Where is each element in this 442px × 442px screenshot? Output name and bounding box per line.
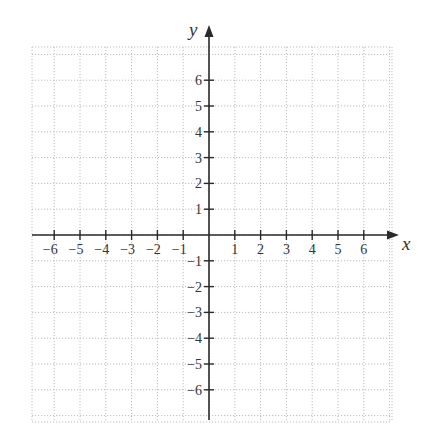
y-axis-label: y [187, 19, 198, 40]
x-tick-label: 2 [257, 242, 264, 257]
y-tick-label: −6 [187, 383, 202, 398]
x-tick-label: 6 [360, 242, 367, 257]
x-tick-label: 4 [309, 242, 316, 257]
y-tick-label: 2 [195, 176, 202, 191]
x-tick-label: −2 [146, 242, 161, 257]
y-tick-label: 4 [195, 125, 202, 140]
x-tick-label: −5 [69, 242, 84, 257]
y-tick-label: −1 [187, 254, 202, 269]
coordinate-plane: −6−5−4−3−2−1123456−6−5−4−3−2−1123456 x y [0, 0, 442, 442]
x-tick-label: −4 [94, 242, 109, 257]
y-tick-label: −3 [187, 305, 202, 320]
y-tick-label: −2 [187, 280, 202, 295]
x-tick-label: −6 [43, 242, 58, 257]
y-axis-arrow-icon [205, 25, 214, 37]
x-axis-label: x [401, 233, 411, 254]
x-tick-label: 3 [283, 242, 290, 257]
y-tick-label: −5 [187, 357, 202, 372]
y-tick-label: −4 [187, 331, 202, 346]
y-tick-label: 3 [195, 151, 202, 166]
y-tick-label: 1 [195, 202, 202, 217]
x-tick-label: 5 [335, 242, 342, 257]
x-axis-arrow-icon [387, 231, 399, 240]
x-tick-label: −1 [172, 242, 187, 257]
x-tick-label: 1 [231, 242, 238, 257]
y-tick-label: 6 [195, 73, 202, 88]
y-tick-label: 5 [195, 99, 202, 114]
x-tick-label: −3 [120, 242, 135, 257]
axes [32, 25, 399, 420]
